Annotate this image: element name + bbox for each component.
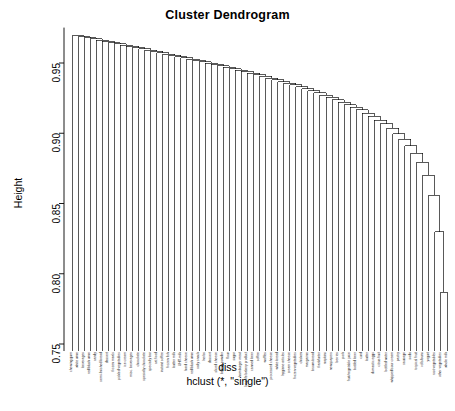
- dendrogram-branches: [72, 36, 447, 351]
- x-axis-subtitle: hclust (*, "single"): [0, 375, 455, 387]
- leaf-label: coffee: [257, 352, 261, 361]
- leaf-label: butter: [365, 351, 369, 361]
- leaf-label: flour: [226, 351, 230, 358]
- dendrogram-canvas: chewing gumwhite winebeveragesred/blush …: [0, 0, 455, 411]
- leaf-label: curd: [359, 352, 363, 359]
- y-axis-tick-label: 0.75: [51, 344, 62, 363]
- y-axis-tick-label: 0.85: [51, 204, 62, 223]
- x-axis-label: diss: [0, 361, 455, 373]
- leaf-label: pastry: [396, 352, 400, 362]
- leaf-label: herbs: [202, 352, 206, 361]
- y-axis-tick-label: 0.95: [51, 63, 62, 82]
- leaf-label: soda: [408, 352, 412, 359]
- leaf-label: candy: [93, 352, 97, 361]
- leaf-label: sugar: [232, 351, 236, 360]
- leaf-label: pork: [341, 352, 345, 359]
- dendrogram-plot: Cluster Dendrogram Height chewing gumwhi…: [0, 0, 455, 411]
- y-axis-tick-label: 0.80: [51, 274, 62, 293]
- y-axis-tick-label: 0.90: [51, 133, 62, 152]
